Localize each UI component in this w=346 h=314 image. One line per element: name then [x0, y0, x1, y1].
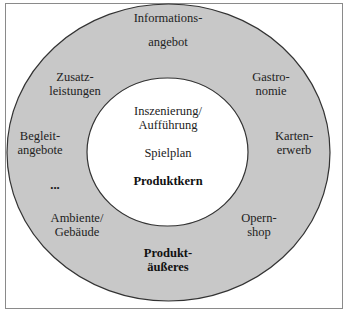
label-ambiente-gebaeude: Ambiente/ Gebäude	[51, 211, 104, 239]
label-line: Zusatz-	[49, 70, 100, 84]
label-ellipsis: ...	[50, 178, 59, 192]
title-produktaeusseres: Produkt- äußeres	[144, 246, 192, 274]
label-line: Spielplan	[144, 146, 191, 160]
title-produktkern: Produktkern	[133, 174, 202, 188]
label-line: Inszenierung/	[134, 104, 202, 118]
label-line: Karten-	[275, 129, 313, 143]
label-begleitangebote: Begleit- angebote	[17, 129, 62, 157]
label-line: Aufführung	[134, 118, 202, 132]
label-line: nomie	[252, 84, 290, 98]
label-opernshop: Opern- shop	[241, 211, 276, 239]
label-spielplan: Spielplan	[144, 146, 191, 160]
label-kartenerwerb: Karten- erwerb	[275, 129, 313, 157]
label-line: erwerb	[275, 143, 313, 157]
label-line: Ambiente/	[51, 211, 104, 225]
label-line: angebote	[17, 143, 62, 157]
label-line: ...	[50, 178, 59, 192]
title-line: Produktkern	[133, 174, 202, 188]
label-line: Informations-	[134, 11, 203, 25]
label-zusatzleistungen: Zusatz- leistungen	[49, 70, 100, 98]
label-line: Gastro-	[252, 70, 290, 84]
label-line: Opern-	[241, 211, 276, 225]
label-line: angebot	[134, 35, 203, 49]
label-informationsangebot: Informations- angebot	[134, 11, 203, 49]
label-line: Begleit-	[17, 129, 62, 143]
label-inszenierung-auffuehrung: Inszenierung/ Aufführung	[134, 104, 202, 132]
title-line: Produkt-	[144, 246, 192, 260]
label-gastronomie: Gastro- nomie	[252, 70, 290, 98]
label-line: Gebäude	[51, 225, 104, 239]
label-line: leistungen	[49, 84, 100, 98]
label-line: shop	[241, 225, 276, 239]
title-line: äußeres	[144, 260, 192, 274]
